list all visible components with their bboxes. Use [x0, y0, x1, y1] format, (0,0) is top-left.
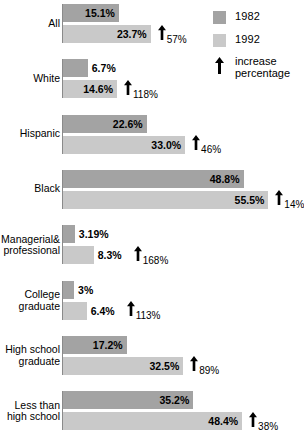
increase-annotation: 89%: [190, 356, 219, 375]
bar-row: 14.6%118%: [63, 80, 158, 98]
bar-value-label: 3%: [78, 284, 93, 296]
bar-1992: 23.7%: [63, 25, 151, 43]
up-arrow-icon: [134, 246, 142, 265]
increase-percentage-label: 168%: [143, 256, 169, 266]
increase-percentage-label: 89%: [199, 366, 219, 376]
bar-1992: 32.5%: [63, 357, 183, 375]
increase-annotation: 57%: [158, 25, 187, 44]
increase-annotation: 168%: [134, 246, 169, 265]
bar-value-label: 33.0%: [151, 139, 181, 151]
bar-group: White6.7%14.6%118%: [0, 59, 304, 107]
bar-group: College graduate3%6.4%113%: [0, 281, 304, 329]
bar-value-label: 6.4%: [91, 305, 115, 317]
bar-1982: 3%: [63, 281, 74, 299]
bar-value-label: 14.6%: [83, 83, 113, 95]
bar-row: 17.2%: [63, 336, 127, 354]
category-label: High school graduate: [0, 344, 63, 367]
bar-row: 15.1%: [63, 4, 119, 22]
horizontal-bar-chart: 1982 1992 increase percentage All15.1%23…: [0, 0, 304, 447]
bar-value-label: 3.19%: [79, 228, 109, 240]
increase-percentage-label: 57%: [167, 35, 187, 45]
bar-row: 55.5%14%: [63, 191, 304, 209]
category-label: Hispanic: [0, 128, 63, 140]
bar-row: 22.6%: [63, 115, 147, 133]
bar-group: Managerial& professional3.19%8.3%168%: [0, 225, 304, 273]
bar-group: Less than high school35.2%48.4%38%: [0, 391, 304, 439]
bar-value-label: 35.2%: [159, 394, 189, 406]
bar-row: 32.5%89%: [63, 357, 219, 375]
bar-value-label: 55.5%: [235, 194, 265, 206]
bar-1982: 15.1%: [63, 4, 119, 22]
up-arrow-icon: [192, 135, 200, 154]
bar-1982: 17.2%: [63, 336, 127, 354]
category-label: Managerial& professional: [0, 233, 63, 256]
increase-percentage-label: 14%: [284, 200, 304, 210]
bar-group: Hispanic22.6%33.0%46%: [0, 115, 304, 163]
bar-value-label: 48.4%: [208, 415, 238, 427]
bar-value-label: 17.2%: [93, 339, 123, 351]
category-label: College graduate: [0, 289, 63, 312]
bar-1992: 8.3%: [63, 246, 94, 264]
chart-source-note: [0, 441, 304, 447]
bar-1992: 33.0%: [63, 136, 185, 154]
bar-row: 6.4%113%: [63, 302, 161, 320]
category-label: All: [0, 18, 63, 30]
bar-group: Black48.8%55.5%14%: [0, 170, 304, 218]
increase-percentage-label: 113%: [136, 311, 161, 321]
bar-1992: 14.6%: [63, 80, 117, 98]
bar-row: 35.2%: [63, 391, 193, 409]
increase-annotation: 14%: [275, 190, 304, 209]
bar-value-label: 32.5%: [149, 360, 179, 372]
bar-row: 3%: [63, 281, 74, 299]
bar-value-label: 6.7%: [92, 62, 116, 74]
bar-row: 48.8%: [63, 170, 244, 188]
bar-1982: 22.6%: [63, 115, 147, 133]
category-label: White: [0, 73, 63, 85]
up-arrow-icon: [158, 25, 166, 44]
bar-value-label: 15.1%: [85, 7, 115, 19]
bar-value-label: 22.6%: [113, 118, 143, 130]
bar-row: 23.7%57%: [63, 25, 187, 43]
category-label: Less than high school: [0, 399, 63, 422]
bar-row: 33.0%46%: [63, 136, 221, 154]
up-arrow-icon: [249, 412, 257, 431]
bar-row: 48.4%38%: [63, 412, 278, 430]
up-arrow-icon: [190, 356, 198, 375]
bar-1982: 6.7%: [63, 59, 88, 77]
increase-percentage-label: 46%: [201, 145, 221, 155]
increase-percentage-label: 38%: [258, 422, 278, 432]
bar-1992: 6.4%: [63, 302, 87, 320]
increase-percentage-label: 118%: [133, 90, 158, 100]
bar-group: High school graduate17.2%32.5%89%: [0, 336, 304, 384]
bar-row: 6.7%: [63, 59, 88, 77]
bar-1992: 48.4%: [63, 412, 242, 430]
bar-value-label: 8.3%: [98, 249, 122, 261]
increase-annotation: 38%: [249, 412, 278, 431]
increase-annotation: 46%: [192, 135, 221, 154]
bar-value-label: 48.8%: [210, 173, 240, 185]
increase-annotation: 113%: [127, 301, 161, 320]
bar-group: All15.1%23.7%57%: [0, 4, 304, 52]
category-label: Black: [0, 184, 63, 196]
up-arrow-icon: [124, 80, 132, 99]
bar-1982: 3.19%: [63, 225, 75, 243]
bar-row: 8.3%168%: [63, 246, 168, 264]
bar-value-label: 23.7%: [117, 28, 147, 40]
bar-1982: 48.8%: [63, 170, 244, 188]
bar-1982: 35.2%: [63, 391, 193, 409]
up-arrow-icon: [127, 301, 135, 320]
up-arrow-icon: [275, 190, 283, 209]
bar-row: 3.19%: [63, 225, 75, 243]
increase-annotation: 118%: [124, 80, 158, 99]
bar-1992: 55.5%: [63, 191, 268, 209]
